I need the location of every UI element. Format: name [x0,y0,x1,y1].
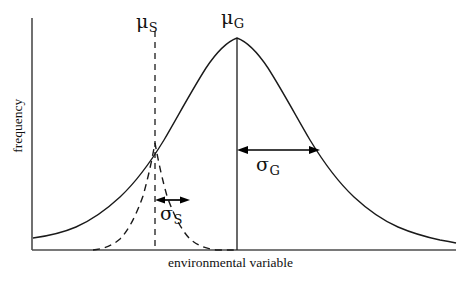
sigma-s-symbol: σ [160,202,173,224]
curve-g-solid [33,38,456,243]
mu-g-subscript: G [234,16,244,31]
sigma-g-subscript: G [269,163,279,178]
x-axis-label: environmental variable [0,256,461,270]
mu-s-label: μS [136,12,157,31]
sigma-g-arrow [237,146,320,154]
y-axis-label: frequency [11,86,25,166]
distribution-figure: μS μG σG σS environmental variable frequ… [0,0,461,282]
sigma-g-label: σG [256,155,279,174]
sigma-g-symbol: σ [256,153,269,175]
plot-area [0,0,461,282]
mu-s-symbol: μ [136,10,148,32]
mu-g-symbol: μ [221,6,233,28]
mu-g-label: μG [221,8,244,27]
sigma-s-label: σS [160,204,182,223]
sigma-s-subscript: S [173,212,182,227]
mu-s-subscript: S [149,20,158,35]
